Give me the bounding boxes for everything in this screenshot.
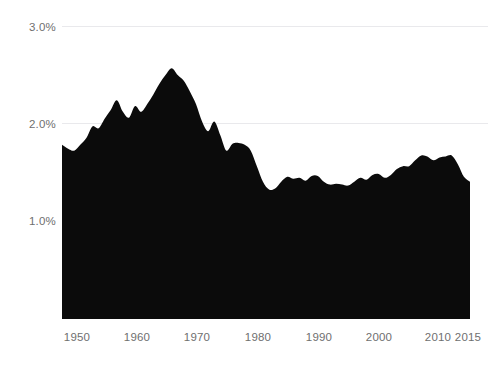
x-axis-tick-label-1980: 1980	[233, 332, 283, 344]
x-axis-tick-label-1990: 1990	[294, 332, 344, 344]
area-chart-plot	[0, 0, 495, 366]
chart-container: 3.0% 2.0% 1.0% 1950 1960 1970 1980 1990 …	[0, 0, 495, 366]
x-axis-tick-label-2015: 2015	[443, 332, 493, 344]
x-axis-tick-label-1970: 1970	[172, 332, 222, 344]
x-axis-tick-label-1950: 1950	[52, 332, 102, 344]
x-axis-tick-label-2000: 2000	[354, 332, 404, 344]
x-axis-tick-label-1960: 1960	[112, 332, 162, 344]
series-area-path	[62, 68, 470, 319]
gridlines	[62, 27, 488, 124]
